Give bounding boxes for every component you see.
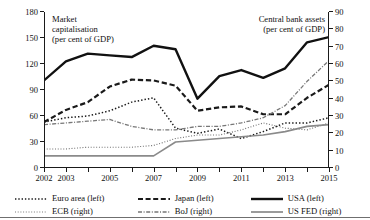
x-axis-tick-label: 2002 [36, 174, 53, 183]
solid-thick-line-icon [250, 194, 284, 203]
series-lines [44, 12, 329, 168]
x-axis-tick-label: 2009 [189, 174, 206, 183]
right-axis-tick [329, 80, 333, 81]
x-axis-tick-label: 2011 [233, 174, 250, 183]
legend-item-us-fed: US FED (right) [240, 207, 364, 216]
x-axis-tick [285, 168, 286, 172]
x-axis-tick [197, 168, 198, 172]
right-axis-tick-label: 0 [335, 164, 339, 173]
solid-gray-line-icon [250, 207, 284, 216]
left-axis-tick-label: 0 [34, 164, 38, 173]
right-axis-tick-label: 50 [335, 77, 344, 86]
legend-item-boj: BoJ (right) [123, 207, 240, 216]
x-axis-tick [110, 168, 111, 172]
x-axis-tick [66, 168, 67, 172]
x-axis-tick [88, 168, 89, 172]
x-axis-tick [132, 168, 133, 172]
legend-separator [0, 217, 370, 218]
right-axis-tick [329, 63, 333, 64]
x-axis-tick-label: 2003 [57, 174, 74, 183]
legend-label: BoJ (right) [175, 207, 212, 216]
legend-item-japan: Japan (left) [123, 194, 240, 203]
left-axis-tick-label: 180 [25, 8, 38, 17]
left-axis-tick-label: 150 [25, 34, 38, 43]
x-axis-tick [219, 168, 220, 172]
right-axis-tick [329, 132, 333, 133]
right-axis-tick [329, 150, 333, 151]
x-axis-tick [263, 168, 264, 172]
right-y-axis [328, 12, 329, 168]
x-axis-tick [307, 168, 308, 172]
right-axis-tick-label: 40 [335, 95, 344, 104]
x-axis-tick-label: 2005 [101, 174, 118, 183]
right-axis-tick [329, 115, 333, 116]
fine-dotted-line-icon [14, 207, 48, 216]
legend-row-top: Euro area (left) Japan (left) USA (left) [6, 192, 364, 205]
right-axis-tick [329, 46, 333, 47]
left-axis-tick [40, 63, 44, 64]
series-line [44, 123, 329, 149]
x-axis-tick-label: 2007 [145, 174, 162, 183]
right-axis-tick-label: 90 [335, 8, 344, 17]
legend-label: USA (left) [288, 194, 324, 203]
x-axis-tick [44, 168, 45, 172]
legend-label: Euro area (left) [52, 194, 104, 203]
left-axis-tick [40, 11, 44, 12]
right-axis-tick-label: 30 [335, 112, 344, 121]
right-axis-tick-label: 20 [335, 129, 344, 138]
left-axis-tick [40, 141, 44, 142]
legend-label: Japan (left) [175, 194, 214, 203]
right-axis-tick-label: 10 [335, 147, 344, 156]
right-axis-tick-label: 80 [335, 25, 344, 34]
legend-item-ecb: ECB (right) [6, 207, 123, 216]
left-axis-tick [40, 37, 44, 38]
left-y-axis [44, 12, 45, 168]
right-axis-tick-label: 60 [335, 60, 344, 69]
right-axis-tick [329, 11, 333, 12]
right-axis-tick [329, 28, 333, 29]
dash-dot-line-icon [137, 207, 171, 216]
legend-label: US FED (right) [288, 207, 341, 216]
right-axis-tick-label: 70 [335, 43, 344, 52]
x-axis-tick-label: 2013 [277, 174, 294, 183]
left-axis-tick-label: 30 [30, 138, 39, 147]
dashed-line-icon [137, 194, 171, 203]
x-axis [44, 167, 329, 168]
left-axis-tick-label: 90 [30, 86, 39, 95]
dotted-line-icon [14, 194, 48, 203]
left-axis-tick-label: 120 [25, 60, 38, 69]
right-axis-tick [329, 98, 333, 99]
left-axis-tick [40, 115, 44, 116]
chart-figure: Market capitalisation (per cent of GDP) … [0, 0, 370, 220]
x-axis-tick [154, 168, 155, 172]
series-line [44, 80, 329, 122]
legend-item-euro-area: Euro area (left) [6, 194, 123, 203]
series-line [44, 61, 329, 130]
x-axis-tick [329, 168, 330, 172]
plot-area: Market capitalisation (per cent of GDP) … [44, 12, 329, 168]
series-line [44, 125, 329, 156]
chart-legend: Euro area (left) Japan (left) USA (left) [0, 192, 370, 218]
legend-item-usa: USA (left) [240, 194, 364, 203]
left-axis-tick [40, 89, 44, 90]
x-axis-tick [176, 168, 177, 172]
x-axis-tick-label: 2015 [321, 174, 338, 183]
left-axis-tick-label: 60 [30, 112, 39, 121]
series-line [44, 37, 329, 99]
legend-label: ECB (right) [52, 207, 93, 216]
x-axis-tick [241, 168, 242, 172]
